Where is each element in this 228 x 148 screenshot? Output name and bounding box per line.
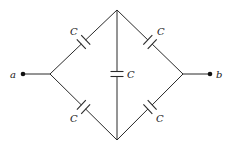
capacitor-upper-right [117,10,183,74]
terminal-b-label: b [216,69,222,80]
capacitor-upper-right-label: C [157,26,165,37]
capacitor-upper-left-label: C [70,26,78,37]
terminal-a-node [21,72,26,77]
capacitor-lower-right [117,74,183,140]
capacitor-lower-right-label: C [156,113,164,124]
capacitor-lower-left-label: C [70,113,78,124]
terminal-b-node [208,72,213,77]
capacitor-upper-left [50,10,117,74]
circuit-diagram: a b C C C C C [0,0,228,148]
capacitor-lower-left [50,74,117,140]
capacitor-middle [111,10,124,140]
capacitor-middle-label: C [127,69,135,80]
terminal-a-label: a [10,69,16,80]
